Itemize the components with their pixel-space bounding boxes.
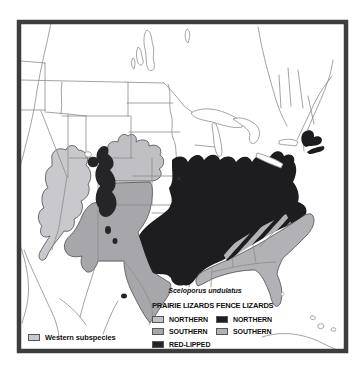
swatch-prairie-northern <box>152 316 164 323</box>
swatch-western-subspecies <box>28 334 40 341</box>
legend-row: SOUTHERN <box>216 328 273 335</box>
legend-row: NORTHERN <box>152 316 214 323</box>
swatch-fence-northern <box>216 316 228 323</box>
legend-label: SOUTHERN <box>169 328 207 335</box>
legend-fence-title: FENCE LIZARDS <box>216 301 273 310</box>
legend-label: NORTHERN <box>169 316 208 323</box>
legend-row: SOUTHERN <box>152 328 214 335</box>
legend-label: RED-LIPPED <box>169 341 210 348</box>
legend-prairie-lizards: PRAIRIE LIZARDS NORTHERN SOUTHERN RED-LI… <box>152 301 214 348</box>
swatch-fence-southern <box>216 328 228 335</box>
range-map-figure: × Sceloporus undulatus PRAIRIE LIZARDS N… <box>0 0 356 373</box>
legend-overlay: Sceloporus undulatus PRAIRIE LIZARDS NOR… <box>0 0 356 373</box>
western-subspecies-note: Western subspecies <box>28 333 116 342</box>
species-title: Sceloporus undulatus <box>138 287 272 294</box>
legend-row: RED-LIPPED <box>152 341 214 348</box>
legend-row: NORTHERN <box>216 316 273 323</box>
western-subspecies-label: Western subspecies <box>45 333 116 342</box>
legend-prairie-title: PRAIRIE LIZARDS <box>152 301 214 310</box>
legend-fence-lizards: FENCE LIZARDS NORTHERN SOUTHERN <box>216 301 273 335</box>
legend-label: NORTHERN <box>233 316 272 323</box>
swatch-prairie-southern <box>152 328 164 335</box>
swatch-prairie-red-lipped <box>152 341 164 348</box>
legend-label: SOUTHERN <box>233 328 271 335</box>
